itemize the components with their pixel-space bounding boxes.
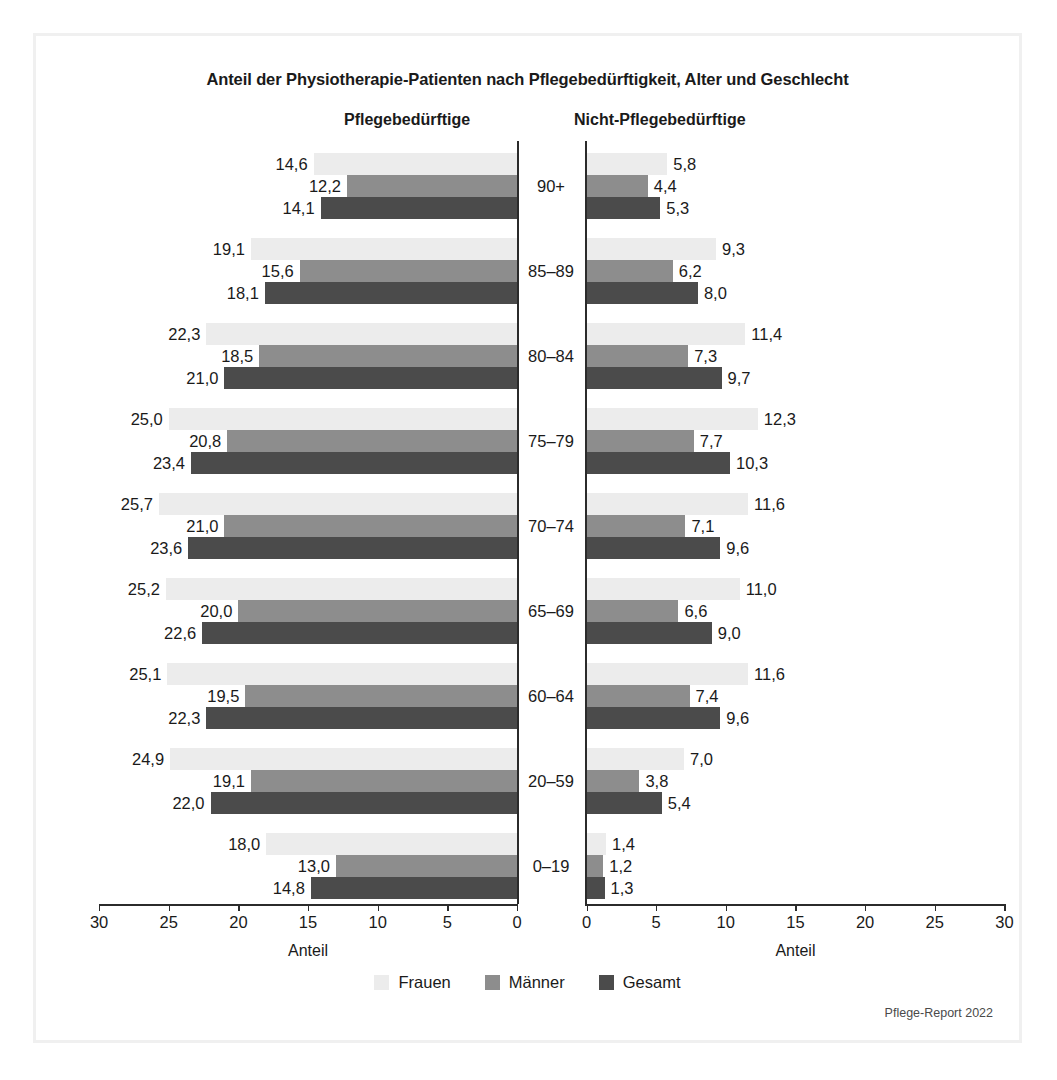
bar-gesamt — [206, 707, 517, 729]
bar-gesamt — [188, 537, 517, 559]
bar-value-label: 12,3 — [764, 408, 852, 430]
bar-frauen — [167, 663, 517, 685]
bar-gesamt — [191, 452, 517, 474]
bar-value-label: 19,1 — [157, 238, 245, 260]
bar-value-label: 15,6 — [206, 260, 294, 282]
axis-tick-label: 30 — [984, 913, 1024, 932]
bar-value-label: 1,2 — [609, 855, 697, 877]
bar-value-label: 22,6 — [108, 622, 196, 644]
axis-tick-label: 0 — [497, 913, 537, 932]
axis-tick-label: 10 — [358, 913, 398, 932]
bar-maenner — [587, 345, 689, 367]
axis-tick — [935, 904, 936, 911]
axis-tick — [1004, 904, 1005, 911]
axis-tick-label: 25 — [149, 913, 189, 932]
bar-maenner — [587, 260, 673, 282]
bar-maenner — [259, 345, 517, 367]
plot-area: 90+14,612,214,15,84,45,385–8919,115,618,… — [36, 36, 1019, 1040]
bar-value-label: 12,2 — [253, 175, 341, 197]
bar-value-label: 14,8 — [217, 877, 305, 899]
bar-gesamt — [321, 197, 517, 219]
bar-value-label: 19,5 — [151, 685, 239, 707]
bar-maenner — [347, 175, 517, 197]
axis-tick-label: 5 — [636, 913, 676, 932]
bar-gesamt — [311, 877, 517, 899]
bar-value-label: 22,0 — [117, 792, 205, 814]
axis-tick-label: 15 — [288, 913, 328, 932]
legend-item-gesamt[interactable]: Gesamt — [599, 973, 681, 992]
bar-maenner — [238, 600, 517, 622]
bar-value-label: 11,6 — [754, 663, 842, 685]
legend-item-maenner[interactable]: Männer — [485, 973, 565, 992]
bar-maenner — [251, 770, 517, 792]
bar-maenner — [300, 260, 517, 282]
bar-gesamt — [587, 282, 698, 304]
bar-value-label: 23,6 — [94, 537, 182, 559]
bar-frauen — [206, 323, 517, 345]
bar-maenner — [587, 515, 686, 537]
bar-gesamt — [587, 707, 721, 729]
axis-tick-label: 20 — [845, 913, 885, 932]
bar-value-label: 25,1 — [73, 663, 161, 685]
bar-value-label: 25,2 — [72, 578, 160, 600]
bar-frauen — [587, 408, 758, 430]
legend-label: Frauen — [398, 973, 450, 992]
axis-tick — [517, 904, 518, 911]
bar-value-label: 6,2 — [679, 260, 767, 282]
bar-value-label: 9,6 — [726, 537, 814, 559]
age-group-label: 90+ — [517, 175, 585, 197]
bar-gesamt — [587, 537, 721, 559]
source-note: Pflege-Report 2022 — [885, 1006, 993, 1020]
bar-value-label: 11,6 — [754, 493, 842, 515]
bar-maenner — [224, 515, 517, 537]
bar-value-label: 21,0 — [130, 515, 218, 537]
legend: FrauenMännerGesamt — [36, 973, 1019, 992]
bar-value-label: 5,4 — [668, 792, 756, 814]
axis-tick — [865, 904, 866, 911]
age-group-label: 65–69 — [517, 600, 585, 622]
age-group-label: 85–89 — [517, 260, 585, 282]
bar-value-label: 13,0 — [242, 855, 330, 877]
bar-value-label: 21,0 — [130, 367, 218, 389]
legend-swatch-frauen-icon — [374, 975, 389, 990]
legend-swatch-maenner-icon — [485, 975, 500, 990]
bar-value-label: 20,8 — [133, 430, 221, 452]
age-group-label: 0–19 — [517, 855, 585, 877]
bar-frauen — [587, 833, 607, 855]
bar-value-label: 24,9 — [76, 748, 164, 770]
bar-value-label: 23,4 — [97, 452, 185, 474]
bar-value-label: 7,3 — [694, 345, 782, 367]
axis-tick — [726, 904, 727, 911]
bar-value-label: 18,0 — [172, 833, 260, 855]
chart-figure: Anteil der Physiotherapie-Patienten nach… — [33, 33, 1022, 1043]
age-group-label: 70–74 — [517, 515, 585, 537]
bar-gesamt — [587, 452, 730, 474]
bar-value-label: 5,8 — [673, 153, 761, 175]
bar-frauen — [587, 748, 685, 770]
bar-gesamt — [587, 877, 605, 899]
bar-gesamt — [224, 367, 517, 389]
legend-swatch-gesamt-icon — [599, 975, 614, 990]
bar-value-label: 11,0 — [746, 578, 834, 600]
age-group-label: 20–59 — [517, 770, 585, 792]
bar-value-label: 14,1 — [227, 197, 315, 219]
bar-value-label: 6,6 — [684, 600, 772, 622]
legend-item-frauen[interactable]: Frauen — [374, 973, 450, 992]
bar-value-label: 8,0 — [704, 282, 792, 304]
axis-tick-label: 5 — [427, 913, 467, 932]
axis-tick-label: 10 — [706, 913, 746, 932]
bar-maenner — [587, 430, 694, 452]
bar-frauen — [169, 408, 517, 430]
bar-frauen — [159, 493, 517, 515]
axis-tick-label: 15 — [775, 913, 815, 932]
bar-maenner — [336, 855, 517, 877]
axis-tick — [378, 904, 379, 911]
bar-maenner — [227, 430, 517, 452]
axis-tick-label: 30 — [79, 913, 119, 932]
bar-gesamt — [587, 622, 712, 644]
age-group-label: 80–84 — [517, 345, 585, 367]
axis-tick — [587, 904, 588, 911]
bar-value-label: 3,8 — [645, 770, 733, 792]
bar-value-label: 1,3 — [611, 877, 699, 899]
x-axis-title: Anteil — [725, 942, 865, 960]
